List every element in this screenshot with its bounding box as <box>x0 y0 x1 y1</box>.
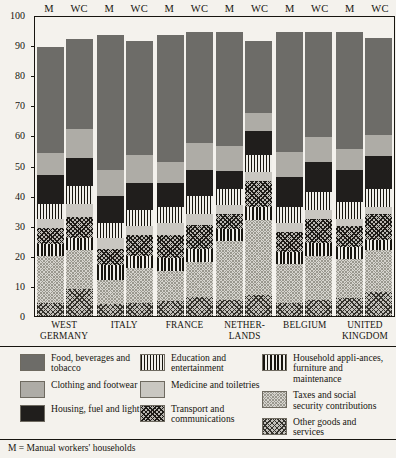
legend-swatch-appliances <box>262 354 287 371</box>
country-label: ITALY <box>94 320 154 345</box>
y-axis-tick-label: 30 <box>15 222 25 232</box>
bar-segment-transport <box>336 226 363 247</box>
bar-segment-other <box>336 298 363 316</box>
legend-item-education[interactable]: Education and entertainment <box>140 353 264 374</box>
bar-segment-taxes <box>305 256 332 299</box>
bar-segment-food <box>186 32 213 143</box>
bar-segment-other <box>216 300 243 316</box>
bar-segment-food <box>245 41 272 113</box>
bar-segment-medicine <box>37 219 64 228</box>
bar-segment-education <box>126 210 153 226</box>
bar-segment-other <box>66 289 93 316</box>
legend-label-food: Food, beverages and tobacco <box>51 353 144 374</box>
bar-segment-clothing <box>365 135 392 156</box>
legend-item-housing[interactable]: Housing, fuel and light <box>20 404 144 422</box>
bar-segment-appliances <box>216 229 243 241</box>
bar-segment-food <box>157 35 184 162</box>
stacked-bar[interactable] <box>305 17 332 316</box>
bar-segment-education <box>157 207 184 223</box>
stacked-bar[interactable] <box>186 17 213 316</box>
footnote: M = Manual workers' households <box>8 443 388 454</box>
column-header-m: M <box>154 1 184 16</box>
legend-item-clothing[interactable]: Clothing and footwear <box>20 380 144 398</box>
bar-segment-clothing <box>157 162 184 183</box>
column-header-wc: WC <box>64 1 94 16</box>
bar-segment-education <box>66 186 93 204</box>
bar-segment-appliances <box>66 238 93 250</box>
legend-item-other[interactable]: Other goods and services <box>262 417 386 438</box>
stacked-bar[interactable] <box>245 17 272 316</box>
bar-segment-appliances <box>186 249 213 262</box>
country-label: WESTGERMANY <box>34 320 94 345</box>
bar-segment-appliances <box>305 243 332 256</box>
stacked-bar[interactable] <box>216 17 243 316</box>
column-header-wc: WC <box>184 1 214 16</box>
column-header-pair: MWC <box>335 1 395 16</box>
bar-segment-transport <box>216 214 243 229</box>
bar-segment-appliances <box>97 265 124 280</box>
legend-label-taxes: Taxes and social security contributions <box>293 390 386 411</box>
bar-segment-education <box>336 202 363 218</box>
stacked-bar[interactable] <box>66 17 93 316</box>
country-group <box>334 17 394 316</box>
bar-segment-appliances <box>365 240 392 250</box>
bar-segment-transport <box>66 217 93 238</box>
bar-segment-food <box>97 35 124 170</box>
legend-column: Education and entertainmentMedicine and … <box>140 353 264 431</box>
legend-item-food[interactable]: Food, beverages and tobacco <box>20 353 144 374</box>
legend-item-medicine[interactable]: Medicine and toiletries <box>140 380 264 398</box>
bar-segment-clothing <box>186 143 213 170</box>
country-group <box>214 17 274 316</box>
bar-segment-taxes <box>365 250 392 292</box>
bar-segment-other <box>276 303 303 316</box>
bar-segment-medicine <box>305 210 332 219</box>
stacked-bar[interactable] <box>157 17 184 316</box>
bar-segment-other <box>305 300 332 316</box>
bar-segment-medicine <box>365 207 392 214</box>
column-header-wc: WC <box>124 1 154 16</box>
bar-segment-education <box>186 196 213 214</box>
bar-segment-housing <box>305 162 332 192</box>
country-group <box>95 17 155 316</box>
bar-segment-taxes <box>276 264 303 303</box>
legend-item-appliances[interactable]: Household appli-ances, furniture and mai… <box>262 353 386 384</box>
bar-segment-housing <box>186 170 213 197</box>
stacked-bar[interactable] <box>37 17 64 316</box>
bar-segment-housing <box>336 170 363 203</box>
stacked-bar[interactable] <box>336 17 363 316</box>
legend-column: Food, beverages and tobaccoClothing and … <box>20 353 144 428</box>
bar-segment-housing <box>245 131 272 155</box>
legend: Food, beverages and tobaccoClothing and … <box>0 346 396 440</box>
legend-swatch-clothing <box>20 381 45 398</box>
bar-segment-housing <box>216 171 243 189</box>
legend-label-clothing: Clothing and footwear <box>51 380 137 390</box>
stacked-bar[interactable] <box>97 17 124 316</box>
legend-swatch-housing <box>20 405 45 422</box>
bar-segment-housing <box>365 156 392 189</box>
bar-segment-medicine <box>126 226 153 235</box>
column-header-pair: MWC <box>215 1 275 16</box>
bar-segment-education <box>305 192 332 210</box>
bars-container <box>35 17 394 316</box>
bar-segment-medicine <box>186 214 213 224</box>
country-label-row: WESTGERMANYITALYFRANCENETHER-LANDSBELGIU… <box>34 320 395 345</box>
bar-segment-food <box>66 39 93 129</box>
legend-item-transport[interactable]: Transport and communications <box>140 404 264 425</box>
bar-segment-medicine <box>245 172 272 181</box>
legend-item-taxes[interactable]: Taxes and social security contributions <box>262 390 386 411</box>
bar-segment-education <box>216 189 243 205</box>
column-header-m: M <box>335 1 365 16</box>
bar-segment-transport <box>157 235 184 257</box>
bar-segment-education <box>245 155 272 173</box>
bar-segment-other <box>97 304 124 316</box>
stacked-bar[interactable] <box>276 17 303 316</box>
stacked-bar[interactable] <box>126 17 153 316</box>
bar-segment-housing <box>66 158 93 186</box>
y-axis-tick-label: 90 <box>15 41 25 51</box>
stacked-bar[interactable] <box>365 17 392 316</box>
legend-label-housing: Housing, fuel and light <box>51 404 139 414</box>
legend-label-education: Education and entertainment <box>171 353 264 374</box>
country-label: NETHER-LANDS <box>215 320 275 345</box>
bar-segment-clothing <box>216 146 243 171</box>
y-axis-tick-label: 70 <box>15 101 25 111</box>
